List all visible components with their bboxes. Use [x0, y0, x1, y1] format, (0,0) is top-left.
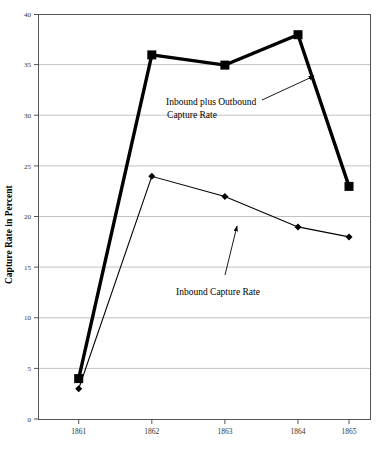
y-tick-30: 30	[24, 112, 32, 120]
chart-plot-svg: 40 35 30 25 20 15 10 5 0 1861 1862 1863 …	[0, 0, 392, 459]
marker-outbound-1865	[345, 182, 354, 191]
marker-outbound-1861	[74, 374, 83, 383]
x-tick-1865: 1865	[342, 427, 357, 436]
x-tick-1863: 1863	[217, 427, 232, 436]
x-tick-1861: 1861	[71, 427, 86, 436]
x-tick-1862: 1862	[144, 427, 159, 436]
annotation-outbound-label-line1: Inbound plus Outbound	[166, 97, 257, 107]
annotation-inbound-label: Inbound Capture Rate	[176, 287, 260, 297]
chart-container: Figure 1. Confederate Capture Rates, 186…	[0, 0, 392, 459]
y-tick-15: 15	[24, 264, 32, 272]
marker-outbound-1863	[220, 61, 229, 70]
annotation-outbound-label-line2: Capture Rate	[167, 110, 217, 120]
marker-outbound-1862	[147, 50, 156, 59]
y-axis-tick-labels: 40 35 30 25 20 15 10 5 0	[24, 11, 32, 424]
y-tick-0: 0	[28, 416, 32, 424]
x-tick-1864: 1864	[291, 427, 306, 436]
y-tick-25: 25	[24, 163, 32, 171]
marker-outbound-1864	[294, 30, 303, 39]
y-tick-20: 20	[24, 213, 32, 221]
y-tick-35: 35	[24, 61, 32, 69]
y-tick-40: 40	[24, 11, 32, 19]
plot-frame	[39, 15, 371, 420]
y-tick-5: 5	[28, 365, 32, 373]
x-axis-tick-labels: 1861 1862 1863 1864 1865	[71, 427, 357, 436]
y-tick-10: 10	[24, 314, 32, 322]
